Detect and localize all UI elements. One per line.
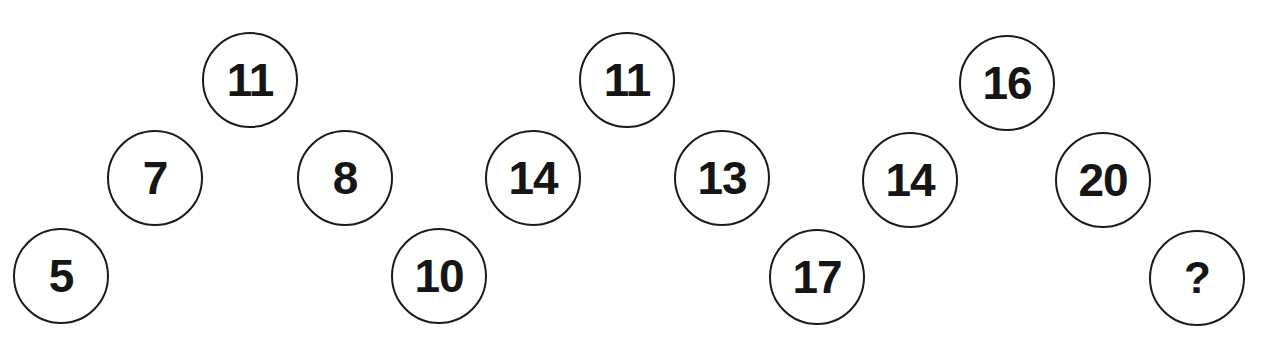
node-value: 11 — [227, 57, 274, 103]
circle-node-g1-middle-right: 8 — [297, 130, 393, 226]
node-value: 7 — [143, 155, 168, 201]
number-circle-puzzle: 11 7 8 5 11 14 13 10 16 14 20 17 ? — [0, 0, 1263, 364]
circle-node-g2-middle-left: 14 — [485, 130, 581, 226]
node-value: 17 — [792, 254, 841, 300]
circle-node-g2-middle-right: 13 — [674, 130, 770, 226]
node-value: 16 — [982, 60, 1031, 106]
circle-node-g3-bottom-left: 17 — [769, 229, 865, 325]
circle-node-g3-top: 16 — [959, 35, 1055, 131]
node-value: 8 — [333, 155, 358, 201]
cropped-text-fragment — [480, 0, 780, 2]
node-value: 11 — [604, 57, 651, 103]
circle-node-g1-top: 11 — [202, 32, 298, 128]
circle-node-g3-middle-left: 14 — [862, 132, 958, 228]
node-value: 13 — [697, 155, 746, 201]
circle-node-g3-middle-right: 20 — [1055, 132, 1151, 228]
circle-node-g1-bottom-left: 5 — [13, 228, 109, 324]
node-value: 14 — [885, 157, 934, 203]
circle-node-unknown-answer: ? — [1149, 230, 1245, 326]
question-mark-icon: ? — [1184, 256, 1210, 300]
circle-node-g1-middle-left: 7 — [107, 130, 203, 226]
node-value: 5 — [49, 253, 74, 299]
node-value: 10 — [414, 253, 463, 299]
circle-node-g2-top: 11 — [579, 32, 675, 128]
node-value: 14 — [508, 155, 557, 201]
node-value: 20 — [1078, 157, 1127, 203]
circle-node-g2-bottom-left: 10 — [391, 228, 487, 324]
